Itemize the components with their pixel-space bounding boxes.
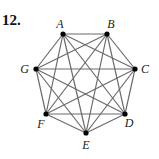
vertex-label-A: A [55,17,64,31]
vertex-B [104,31,109,36]
vertex-label-E: E [81,138,90,152]
edge-B-F [46,34,107,114]
vertex-A [60,31,65,36]
vertex-F [43,111,48,116]
vertex-G [33,66,38,71]
edge-E-F [46,114,86,133]
vertex-label-B: B [107,17,115,31]
vertex-label-D: D [124,116,134,130]
edges [36,34,135,133]
vertex-C [132,66,137,71]
complete-graph-diagram: ABCDEFG [0,0,159,159]
edge-C-F [46,69,135,114]
edge-A-C [63,34,135,69]
edge-B-G [36,34,107,69]
vertex-label-G: G [20,62,29,76]
edge-B-E [86,34,107,133]
vertex-label-C: C [141,62,150,76]
vertex-E [83,130,88,135]
vertex-label-F: F [36,117,45,131]
vertices [33,31,137,135]
edge-D-E [86,114,125,133]
